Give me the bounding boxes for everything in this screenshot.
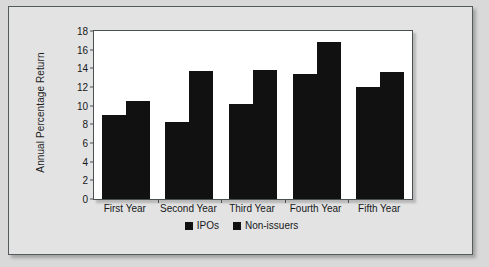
legend-label: IPOs [197, 220, 219, 231]
x-tick-mark [285, 199, 286, 203]
x-tick-label: First Year [104, 203, 146, 214]
bar [229, 104, 253, 199]
bar [380, 72, 404, 199]
x-tick-label: Fourth Year [290, 203, 342, 214]
bars-layer [94, 31, 412, 199]
legend-swatch-icon [185, 222, 193, 230]
bar [102, 115, 126, 199]
bar-group [293, 31, 341, 199]
bar-group [165, 31, 213, 199]
bar [356, 87, 380, 199]
figure-frame: Annual Percentage Return 024681012141618… [8, 6, 473, 255]
bar [253, 70, 277, 199]
x-tick-mark [158, 199, 159, 203]
x-tick-label: Fifth Year [358, 203, 400, 214]
x-tick-label: Third Year [229, 203, 275, 214]
y-axis-title: Annual Percentage Return [35, 33, 46, 193]
bar [293, 74, 317, 199]
bar-group [229, 31, 277, 199]
legend-swatch-icon [233, 222, 241, 230]
x-tick-mark [348, 199, 349, 203]
bar [189, 71, 213, 199]
x-tick-mark [221, 199, 222, 203]
bar-group [102, 31, 150, 199]
chart-legend: IPOsNon-issuers [9, 220, 474, 231]
legend-label: Non-issuers [245, 220, 298, 231]
bar-group [356, 31, 404, 199]
x-tick-label: Second Year [160, 203, 217, 214]
bar [317, 42, 341, 199]
bar [126, 101, 150, 199]
bar-chart: Annual Percentage Return 024681012141618… [9, 7, 474, 256]
bar [165, 122, 189, 199]
plot-area: 024681012141618 [93, 30, 413, 200]
legend-item: Non-issuers [233, 220, 298, 231]
legend-item: IPOs [185, 220, 219, 231]
